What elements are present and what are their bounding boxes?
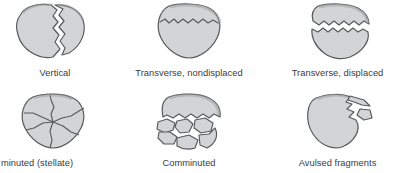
stellate-fracture-illustration [9, 92, 101, 150]
panel-transverse-displaced: Transverse, displaced [268, 2, 407, 80]
caption-wrapper: Vertical [40, 62, 71, 80]
caption-wrapper: minuted (stellate) [1, 152, 73, 170]
panel-label-vertical: Vertical [40, 68, 71, 78]
bone-fragment-left-upper [157, 119, 175, 133]
panel-label-transverse-displaced: Transverse, displaced [292, 68, 384, 78]
panel-vertical: Vertical [0, 2, 110, 80]
avulsed-fragments-illustration [292, 92, 384, 150]
panel-transverse-nondisplaced: Transverse, nondisplaced [110, 2, 268, 80]
panel-avulsed-fragments: Avulsed fragments [268, 92, 407, 170]
bone-fragment-right-upper [194, 118, 213, 133]
caption-wrapper: Transverse, nondisplaced [135, 62, 242, 80]
panel-comminuted: Comminuted [110, 92, 268, 170]
caption-wrapper: Transverse, displaced [292, 62, 384, 80]
transverse-displaced-fracture-illustration [292, 2, 384, 60]
transverse-nondisplaced-fracture-illustration [143, 2, 235, 60]
panel-label-transverse-nondisplaced: Transverse, nondisplaced [135, 68, 242, 78]
panel-label-avulsed-fragments: Avulsed fragments [299, 158, 377, 168]
bone-body [307, 94, 357, 147]
bone-fragment-central [175, 119, 193, 133]
caption-wrapper: Avulsed fragments [299, 152, 377, 170]
bone-body [158, 4, 220, 58]
bone-fragment-avulsed-lower [357, 109, 372, 120]
panel-label-comminuted-stellate: minuted (stellate) [1, 158, 73, 168]
bone-fragment-left-lower [158, 132, 177, 144]
panel-label-comminuted: Comminuted [162, 158, 215, 168]
vertical-fracture-illustration [9, 2, 101, 60]
comminuted-fracture-illustration [143, 92, 235, 150]
panel-comminuted-stellate: minuted (stellate) [0, 92, 110, 170]
bone-fragment-inferior-pole [177, 135, 198, 149]
bone-fragment-inferior [311, 28, 367, 59]
patella-fracture-figure: Vertical Transverse, nondisplaced Transv… [0, 0, 407, 173]
caption-wrapper: Comminuted [162, 152, 215, 170]
